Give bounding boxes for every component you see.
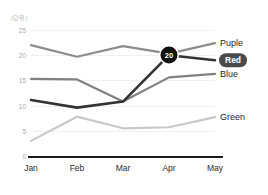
series-lines bbox=[0, 0, 268, 195]
series-line-blue bbox=[31, 74, 215, 102]
data-point-marker[interactable]: 20 bbox=[161, 47, 178, 64]
legend-item-green[interactable]: Green bbox=[220, 112, 245, 122]
series-line-red bbox=[31, 55, 215, 107]
legend-item-blue[interactable]: Blue bbox=[220, 69, 238, 79]
line-chart: (단위) 0510152025 JanFebMarAprMay PupleRed… bbox=[0, 0, 268, 195]
series-line-puple bbox=[31, 43, 215, 57]
legend-item-puple[interactable]: Puple bbox=[220, 38, 243, 48]
series-line-green bbox=[31, 117, 215, 141]
legend-item-red[interactable]: Red bbox=[219, 53, 247, 67]
